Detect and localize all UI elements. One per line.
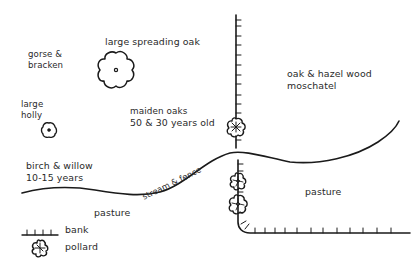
label-gorse-line1: gorse & (28, 49, 63, 60)
label-holly-line1: large (21, 99, 43, 110)
legend-bank-label: bank (65, 224, 88, 236)
label-gorse-line2: bracken (28, 60, 63, 71)
label-birch-line2: 10-15 years (26, 172, 93, 184)
legend-pollard-label: pollard (65, 241, 98, 253)
hand-drawn-map (0, 0, 420, 271)
label-oakhazel-line1: oak & hazel wood (287, 68, 372, 80)
label-maiden-line2: 50 & 30 years old (130, 117, 215, 129)
label-gorse-bracken: gorse & bracken (28, 49, 63, 71)
label-holly-line2: holly (21, 110, 43, 121)
label-large-spreading-oak: large spreading oak (105, 36, 200, 48)
label-large-holly: large holly (21, 99, 43, 121)
label-maiden-line1: maiden oaks (130, 105, 215, 117)
label-birch-willow: birch & willow 10-15 years (26, 160, 93, 184)
legend-pollard-icon (32, 240, 47, 257)
label-birch-line1: birch & willow (26, 160, 93, 172)
oak-tree-icon (98, 52, 134, 88)
label-pasture-left: pasture (94, 207, 130, 219)
holly-tree-icon (42, 123, 57, 138)
legend-bank-icon (22, 230, 58, 235)
label-maiden-oaks: maiden oaks 50 & 30 years old (130, 105, 215, 129)
label-oakhazel-line2: moschatel (287, 80, 372, 92)
label-oak-hazel-wood: oak & hazel wood moschatel (287, 68, 372, 92)
pollard-icon (227, 118, 245, 137)
label-pasture-right: pasture (305, 186, 341, 198)
